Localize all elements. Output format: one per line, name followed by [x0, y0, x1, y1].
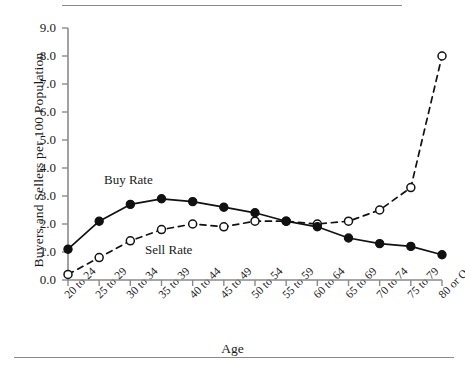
data-point-marker — [438, 52, 446, 60]
data-point-marker — [64, 270, 72, 278]
data-point-marker — [220, 203, 228, 211]
data-point-marker — [345, 217, 353, 225]
data-point-marker — [126, 237, 134, 245]
figure-container: Buyers and Sellers per 100 Population Ag… — [0, 0, 465, 369]
data-point-marker — [344, 234, 352, 242]
series-line — [68, 199, 442, 255]
data-point-marker — [189, 198, 197, 206]
data-point-marker — [251, 209, 259, 217]
data-point-marker — [251, 217, 259, 225]
series-line — [68, 56, 442, 274]
data-point-marker — [282, 217, 290, 225]
data-point-marker — [313, 223, 321, 231]
data-point-marker — [158, 226, 166, 234]
x-axis-ticks — [68, 280, 442, 286]
data-point-marker — [407, 242, 415, 250]
data-point-marker — [189, 220, 197, 228]
data-point-marker — [157, 195, 165, 203]
data-point-marker — [64, 245, 72, 253]
data-point-marker — [376, 240, 384, 248]
data-point-marker — [438, 251, 446, 259]
y-axis-ticks — [62, 28, 68, 280]
data-point-marker — [126, 200, 134, 208]
data-point-marker — [407, 184, 415, 192]
data-point-marker — [376, 206, 384, 214]
axis-lines — [68, 28, 442, 280]
plot-area — [0, 0, 465, 369]
data-point-marker — [95, 217, 103, 225]
data-point-marker — [220, 223, 228, 231]
data-point-marker — [95, 254, 103, 262]
